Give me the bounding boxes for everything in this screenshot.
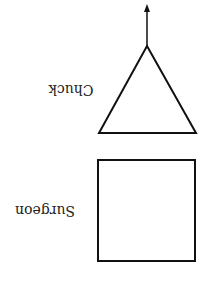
square-label: Surgeon xyxy=(15,203,75,219)
arrowhead-icon xyxy=(144,4,150,12)
triangle-node xyxy=(99,46,196,133)
square-node xyxy=(98,160,195,261)
triangle-label: Chuck xyxy=(48,82,94,98)
diagram-canvas: Chuck Surgeon xyxy=(0,0,207,283)
